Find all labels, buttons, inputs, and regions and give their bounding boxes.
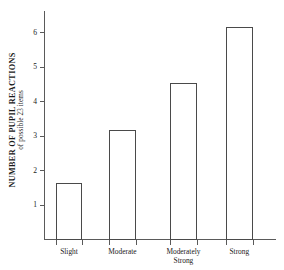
x-axis-tick	[56, 240, 57, 245]
y-axis-line	[44, 11, 45, 240]
y-axis-tick: 6	[40, 32, 45, 33]
y-axis-tick-label: 4	[33, 98, 37, 106]
y-axis-tick-label: 3	[33, 132, 37, 140]
x-axis-tick	[109, 240, 110, 245]
y-axis-label: NUMBER OF PUPIL REACTIONS of possible 23…	[0, 0, 34, 240]
y-axis-tick-label: 1	[33, 201, 37, 209]
plot-area: 123456	[44, 11, 276, 240]
y-axis-tick: 3	[40, 136, 45, 137]
y-axis-tick-label: 5	[33, 64, 37, 72]
y-axis-tick: 2	[40, 170, 45, 171]
bar-slight	[56, 183, 82, 240]
y-axis-tick: 5	[40, 67, 45, 68]
x-axis-tick	[170, 240, 171, 245]
y-axis-subtitle-text: of possible 23 items	[18, 52, 26, 187]
y-axis-tick: 4	[40, 101, 45, 102]
x-axis-label: Strong	[199, 248, 279, 257]
x-axis-tick	[197, 240, 198, 245]
x-axis-tick	[136, 240, 137, 245]
x-axis-tick	[226, 240, 227, 245]
bar-moderately-strong	[170, 83, 197, 240]
bar-chart: NUMBER OF PUPIL REACTIONS of possible 23…	[0, 0, 284, 270]
x-axis-tick	[82, 240, 83, 245]
x-axis-tick	[253, 240, 254, 245]
bar-moderate	[109, 130, 136, 240]
bar-strong	[226, 27, 253, 241]
y-axis-tick: 1	[40, 205, 45, 206]
y-axis-tick-label: 2	[33, 167, 37, 175]
y-axis-tick-label: 6	[33, 29, 37, 37]
